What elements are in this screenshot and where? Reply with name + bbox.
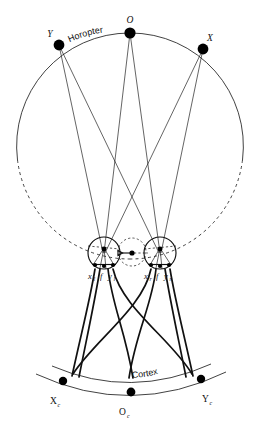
nerve-right-temporal-uncrossed [165,269,186,377]
cortex-label-Y: Y [202,394,209,404]
left-eye-locus-f [102,264,106,268]
horopter-circle [17,33,244,259]
left-eye-locus-yl [111,263,115,267]
horopter-arc-solid [17,33,244,160]
ray-Y-to-left-eye [59,45,103,253]
diagram-canvas: Y O X Horopter [0,0,262,431]
ray-X-to-right-eye [161,49,203,253]
point-Y-dot [54,40,65,51]
right-eye-locus-yr [167,263,171,267]
right-eye-label-f: f [156,271,160,281]
optic-nerve-pathways [72,269,193,378]
ray-O-to-right-eye [130,33,160,253]
nerve-right-nasal-crossed-2 [129,269,156,378]
cortex-point-Yc-dot [197,375,205,383]
right-eye-locus-f [158,264,162,268]
cortex-point-Xc-dot [59,377,67,385]
point-X-label: X [206,33,214,43]
left-eye-locus-xl [93,263,97,267]
point-Y-label: Y [47,29,54,39]
horopter-diagram-figure: Y O X Horopter [0,0,262,431]
cortex-point-Oc-dot [127,388,136,397]
ray-X-to-left-eye [105,49,203,253]
projection-rays [59,33,203,253]
ray-O-to-left-eye [104,33,130,253]
horopter-label-text: Horopter [66,25,103,44]
point-O-label: O [127,15,134,25]
cortex-point-labels: X c O c Y c [50,394,213,419]
left-eye-label-x: x [87,271,92,281]
nerve-left-nasal-crossed [108,269,133,378]
left-eye-labels: x l f y l [87,271,116,282]
cortex-label-Y-sub: c [210,400,213,406]
horopter-label: Horopter [66,25,103,44]
ray-Y-to-right-eye [59,45,159,253]
cortex-label-O: O [119,407,126,417]
cortex-label-text: Cortex [131,366,159,380]
right-eye-locus-xr [149,263,153,267]
left-eye-label-f: f [100,271,104,281]
cortex-label-X: X [50,396,57,406]
cortex-label-O-sub: c [127,413,130,419]
right-eye-label-x-sub: r [150,276,153,282]
cortex-label-X-sub: c [58,402,61,408]
cortex-label: Cortex [131,366,159,380]
point-X-dot [198,44,209,55]
point-O-dot [124,27,135,38]
